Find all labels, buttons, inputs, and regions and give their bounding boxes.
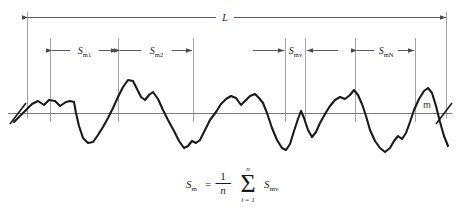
equation-fraction-numerator: 1 <box>220 170 226 182</box>
equation-equals: = <box>205 178 211 190</box>
summation-upper-limit: n <box>246 165 250 173</box>
figure-canvas: L Sm1 Sm2 <box>0 0 462 212</box>
overall-length-label: L <box>221 12 228 23</box>
segment-label-sm1: Sm1 <box>78 45 91 58</box>
mean-spacing-equation: Sm = 1 n Σ n i = 1 Smv <box>186 165 279 204</box>
roughness-profile-figure: L Sm1 Sm2 <box>0 0 462 212</box>
segment-label-smv: Smv <box>289 45 303 58</box>
equation-fraction-denominator: n <box>220 184 226 196</box>
segment-label-sm2: Sm2 <box>150 45 163 58</box>
equation-term: Smv <box>264 178 279 193</box>
summation-lower-limit: i = 1 <box>241 196 255 204</box>
roughness-profile-trace <box>14 80 448 152</box>
overall-length-extension-lines <box>28 12 447 118</box>
mean-line-label: m <box>423 100 431 110</box>
equation-lhs: Sm <box>186 178 198 193</box>
segment-label-smn: SmN <box>379 45 394 58</box>
summation-sigma-icon: Σ <box>240 169 255 198</box>
